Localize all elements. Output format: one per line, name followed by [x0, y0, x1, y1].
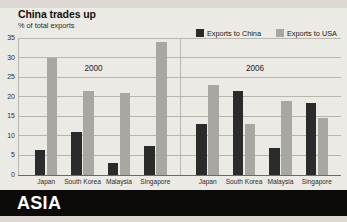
y-axis-tick-15: 15 — [2, 112, 15, 119]
group-label-2000: 2000 — [84, 64, 102, 73]
bar-2000-south-korea-exports-to-china — [71, 132, 82, 175]
bar-2000-malaysia-exports-to-usa — [120, 93, 131, 175]
bar-2006-japan-exports-to-usa — [208, 85, 219, 175]
y-axis-tick-20: 20 — [2, 93, 15, 100]
y-axis-tick-10: 10 — [2, 132, 15, 139]
x-axis-label-2006-singapore: Singapore — [302, 178, 332, 185]
y-axis-tick-35: 35 — [2, 34, 15, 41]
bar-2006-south-korea-exports-to-china — [233, 91, 244, 175]
legend-item-exports-to-usa: Exports to USA — [276, 22, 337, 32]
bar-2006-singapore-exports-to-usa — [318, 118, 329, 175]
bar-2000-singapore-exports-to-usa — [156, 42, 167, 175]
chart-title: China trades up — [18, 8, 96, 20]
x-axis-label-2006-south-korea: South Korea — [226, 178, 263, 185]
section-banner-label: ASIA — [17, 193, 61, 214]
legend-item-exports-to-china: Exports to China — [196, 22, 261, 32]
bar-2000-south-korea-exports-to-usa — [83, 91, 94, 175]
top-strip — [0, 0, 347, 8]
x-axis-label-2006-japan: Japan — [199, 178, 217, 185]
y-axis-tick-5: 5 — [2, 151, 15, 158]
bar-2006-malaysia-exports-to-usa — [281, 101, 292, 175]
y-axis-tick-25: 25 — [2, 73, 15, 80]
x-axis-label-2000-singapore: Singapore — [140, 178, 170, 185]
bottom-strip — [0, 216, 347, 222]
bar-2006-malaysia-exports-to-china — [269, 148, 280, 175]
x-axis-label-2000-malaysia: Malaysia — [106, 178, 132, 185]
bar-2000-singapore-exports-to-china — [144, 146, 155, 175]
bar-2006-singapore-exports-to-china — [306, 103, 317, 175]
y-axis-tick-30: 30 — [2, 54, 15, 61]
chart-plot-area: 051015202530352000JapanSouth KoreaMalays… — [18, 38, 341, 175]
x-axis-label-2006-malaysia: Malaysia — [267, 178, 293, 185]
panel-divider — [180, 38, 181, 175]
y-axis-tick-0: 0 — [2, 171, 15, 178]
chart-subtitle: % of total exports — [18, 21, 74, 30]
legend-swatch-icon — [196, 29, 204, 37]
x-axis-label-2000-japan: Japan — [37, 178, 55, 185]
bar-2006-south-korea-exports-to-usa — [245, 124, 256, 175]
group-label-2006: 2006 — [246, 64, 264, 73]
bar-2000-japan-exports-to-china — [35, 150, 46, 175]
bar-2006-japan-exports-to-china — [196, 124, 207, 175]
bar-2000-japan-exports-to-usa — [47, 58, 58, 175]
legend-swatch-icon — [276, 29, 284, 37]
bar-2000-malaysia-exports-to-china — [108, 163, 119, 175]
section-banner: ASIA — [0, 190, 347, 216]
chart-page: China trades up % of total exports Expor… — [0, 0, 347, 222]
x-axis-label-2000-south-korea: South Korea — [64, 178, 101, 185]
